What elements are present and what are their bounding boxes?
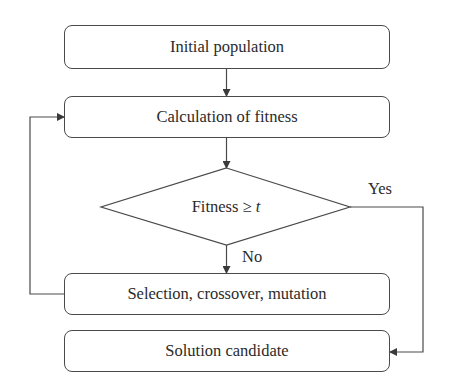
node-selection-crossover-mutation: Selection, crossover, mutation <box>64 273 390 315</box>
node-initial-population: Initial population <box>64 25 390 69</box>
node-calculation-of-fitness: Calculation of fitness <box>64 96 390 138</box>
arrow-loop-back <box>30 117 64 294</box>
decision-label: Fitness ≥ t <box>192 197 261 217</box>
node-solution-candidate: Solution candidate <box>64 330 390 372</box>
edge-label-no: No <box>242 247 262 267</box>
node-label: Calculation of fitness <box>156 107 297 127</box>
node-label: Initial population <box>170 37 284 57</box>
decision-label-text: Fitness ≥ <box>192 197 256 216</box>
node-label: Selection, crossover, mutation <box>127 284 326 304</box>
node-label: Solution candidate <box>165 341 288 361</box>
genetic-algorithm-flowchart: Initial population Calculation of fitnes… <box>0 0 452 385</box>
edge-label-yes: Yes <box>368 179 392 199</box>
threshold-variable: t <box>256 197 261 216</box>
